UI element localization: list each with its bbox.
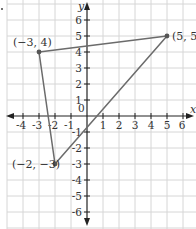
x-tick-label: 6 — [179, 119, 186, 131]
point-label-a: (−3, 4) — [13, 36, 52, 49]
point-a — [37, 50, 42, 55]
y-axis-label: y — [77, 0, 85, 13]
y-tick-label: 5 — [75, 30, 82, 42]
y-tick-label: 6 — [75, 14, 82, 26]
coordinate-plane: x y 0 -4 -3 -2 -1 1 2 3 4 5 6 6 5 4 3 2 … — [0, 0, 196, 229]
x-tick-label: 2 — [116, 119, 123, 131]
x-tick-label: -3 — [32, 119, 42, 131]
y-tick-label: -3 — [72, 158, 82, 170]
y-tick-label: 1 — [75, 94, 82, 106]
y-tick-label: -6 — [72, 206, 83, 218]
y-tick-label: -1 — [72, 126, 82, 138]
y-tick-label: 3 — [75, 62, 82, 74]
x-tick-label: 4 — [148, 119, 155, 131]
stray-dot — [1, 8, 3, 10]
point-b — [165, 34, 170, 39]
y-axis-up-arrow-icon — [84, 2, 90, 10]
x-tick-labels: -4 -3 -2 -1 1 2 3 4 5 6 — [16, 119, 186, 131]
y-tick-label: 2 — [75, 78, 82, 90]
point-label-b: (5, 5) — [172, 30, 196, 43]
x-tick-label: 1 — [100, 119, 107, 131]
x-tick-label: 5 — [164, 119, 171, 131]
x-axis-label: x — [190, 103, 196, 116]
y-tick-label: -5 — [72, 190, 82, 202]
y-tick-label: -4 — [72, 174, 83, 186]
point-label-c: (−2, −3) — [12, 158, 60, 171]
x-tick-label: -4 — [16, 119, 27, 131]
y-axis-down-arrow-icon — [84, 218, 90, 226]
x-tick-label: 3 — [132, 119, 139, 131]
